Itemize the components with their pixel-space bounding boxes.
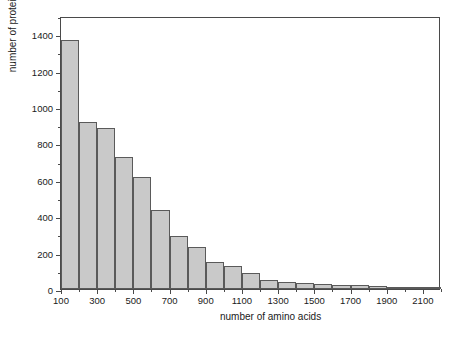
x-tick-mark-minor [405,289,406,292]
histogram-bar [133,177,151,289]
x-tick-mark-minor [260,289,261,292]
x-tick-label: 1900 [376,295,397,307]
bars-layer [61,18,439,289]
x-tick-mark [351,289,352,294]
y-tick-mark-minor [58,18,61,19]
y-tick-mark [56,255,61,256]
y-tick-mark-minor [58,236,61,237]
x-tick-label: 300 [89,295,105,307]
y-tick-mark [56,218,61,219]
histogram-bar [260,280,278,289]
x-tick-mark-minor [441,289,442,292]
x-tick-label: 1100 [232,295,252,307]
x-tick-label: 100 [53,295,69,307]
histogram-bar [351,285,369,289]
x-tick-mark [242,289,243,294]
histogram-bar [314,284,332,289]
y-tick-label: 800 [37,138,53,152]
y-tick-label: 600 [37,175,53,189]
histogram-bar [151,210,169,289]
y-tick-mark-minor [58,127,61,128]
y-tick-mark-minor [58,164,61,165]
x-tick-label: 900 [198,295,214,307]
y-tick-mark [56,145,61,146]
histogram-bar [170,236,188,289]
y-tick-mark-minor [58,273,61,274]
y-tick-label: 1200 [32,66,53,80]
x-tick-mark [387,289,388,294]
y-tick-label: 200 [37,248,53,262]
x-tick-mark-minor [332,289,333,292]
histogram-bar [224,266,242,289]
y-axis-title: number of proteins [6,0,20,167]
histogram-bar [61,40,79,289]
x-tick-mark-minor [188,289,189,292]
y-tick-label: 1400 [32,29,53,43]
histogram-bar [188,247,206,289]
x-tick-mark-minor [115,289,116,292]
x-tick-label: 1700 [340,295,361,307]
x-axis-title: number of amino acids [220,311,321,322]
histogram-bar [332,285,350,289]
histogram-bar [405,287,423,289]
y-tick-mark-minor [58,200,61,201]
y-tick-mark-minor [58,91,61,92]
histogram-bar [79,122,97,289]
histogram-bar [115,157,133,289]
plot-area: 0200400600800100012001400 10030050070090… [60,17,440,290]
x-tick-label: 700 [162,295,178,307]
y-tick-mark [56,36,61,37]
x-tick-mark-minor [296,289,297,292]
x-tick-mark [206,289,207,294]
histogram-bar [369,286,387,289]
x-tick-mark [314,289,315,294]
x-tick-mark [170,289,171,294]
x-tick-label: 1300 [268,295,289,307]
x-tick-mark [133,289,134,294]
histogram-bar [242,273,260,289]
x-tick-mark-minor [224,289,225,292]
y-tick-mark-minor [58,54,61,55]
x-tick-mark-minor [369,289,370,292]
y-tick-mark [56,109,61,110]
histogram-bar [206,262,224,289]
histogram-figure: 0200400600800100012001400 10030050070090… [0,0,466,337]
y-tick-label: 1000 [32,102,53,116]
x-tick-label: 500 [125,295,141,307]
histogram-bar [296,283,314,289]
histogram-bar [97,128,115,289]
y-tick-label: 400 [37,211,53,225]
x-tick-label: 1500 [304,295,325,307]
x-tick-mark-minor [151,289,152,292]
x-tick-mark [423,289,424,294]
x-tick-mark [61,289,62,294]
y-tick-mark [56,73,61,74]
x-tick-mark-minor [79,289,80,292]
x-tick-label: 2100 [412,295,433,307]
histogram-bar [387,287,405,289]
x-tick-mark [97,289,98,294]
y-tick-mark [56,182,61,183]
histogram-bar [278,282,296,289]
histogram-bar [423,287,441,289]
x-tick-mark [278,289,279,294]
